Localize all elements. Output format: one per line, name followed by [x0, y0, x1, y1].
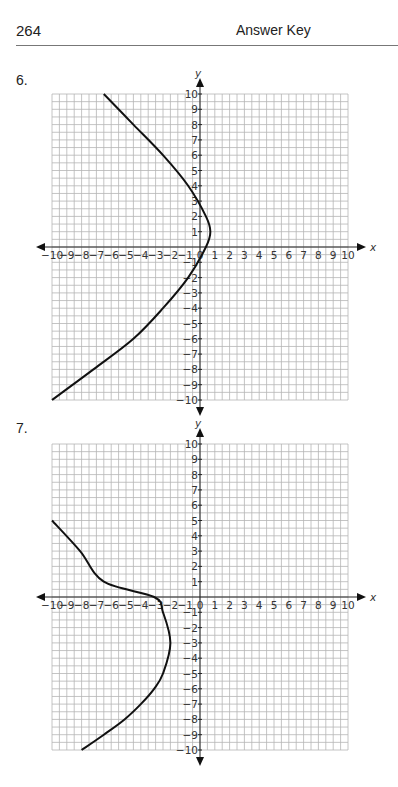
y-tick-label: −3 — [183, 637, 198, 649]
y-tick-label: −1 — [183, 606, 198, 618]
y-tick-label: −7 — [183, 698, 198, 710]
x-tick-label: 6 — [285, 599, 292, 611]
y-tick-label: −6 — [183, 683, 199, 695]
x-tick-label: 1 — [211, 599, 218, 611]
x-tick-label: 4 — [256, 599, 263, 611]
y-tick-label: −9 — [183, 729, 198, 741]
y-tick-label: 6 — [191, 499, 198, 511]
x-tick-label: −6 — [103, 599, 119, 611]
y-axis-arrow-down-icon — [196, 757, 204, 766]
y-tick-label: 9 — [191, 453, 198, 465]
y-tick-label: 8 — [191, 469, 198, 481]
x-tick-label: 10 — [341, 599, 354, 611]
x-tick-label: 5 — [271, 599, 278, 611]
y-tick-label: 10 — [185, 438, 198, 450]
x-tick-label: 8 — [315, 599, 322, 611]
y-tick-label: 5 — [191, 515, 198, 527]
x-axis-arrow-right-icon — [357, 593, 366, 601]
y-tick-label: −10 — [176, 744, 198, 756]
x-tick-label: −4 — [133, 599, 149, 611]
x-axis-label: x — [369, 591, 377, 603]
x-tick-label: 2 — [226, 599, 233, 611]
y-tick-label: 1 — [191, 576, 198, 588]
x-tick-label: 3 — [241, 599, 248, 611]
x-tick-label: 9 — [330, 599, 337, 611]
y-axis-arrow-up-icon — [196, 428, 204, 437]
y-tick-label: 3 — [191, 545, 198, 557]
y-tick-label: 7 — [191, 484, 198, 496]
graph-problem-7: xy−10−9−8−7−6−5−4−3−2−1012345678910−10−9… — [0, 0, 398, 787]
x-tick-label: 7 — [300, 599, 307, 611]
x-tick-label: −9 — [59, 599, 74, 611]
y-tick-label: 4 — [191, 530, 198, 542]
x-tick-label: −7 — [89, 599, 104, 611]
y-tick-label: 2 — [191, 560, 198, 572]
y-tick-label: −5 — [183, 668, 198, 680]
x-tick-label: −2 — [163, 599, 178, 611]
y-tick-label: −8 — [183, 713, 198, 725]
y-tick-label: −2 — [183, 622, 198, 634]
x-tick-label: −5 — [118, 599, 133, 611]
y-tick-label: −4 — [183, 652, 199, 664]
y-axis-label: y — [194, 417, 202, 429]
x-tick-label: −8 — [74, 599, 89, 611]
